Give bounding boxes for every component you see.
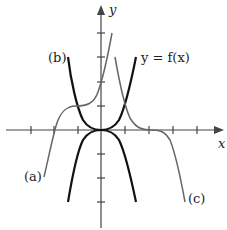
axes bbox=[6, 12, 218, 228]
label-f: y = f(x) bbox=[140, 50, 190, 65]
y-axis-arrow-icon bbox=[97, 5, 105, 15]
curve-neg-f bbox=[68, 130, 136, 202]
label-a: (a) bbox=[24, 169, 42, 184]
x-axis-arrow-icon bbox=[214, 126, 224, 134]
curve-b bbox=[68, 57, 101, 130]
x-axis-label: x bbox=[218, 136, 226, 151]
label-c: (c) bbox=[188, 191, 205, 206]
label-b: (b) bbox=[48, 50, 66, 65]
function-graph: y x (b) y = f(x) (a) (c) bbox=[0, 0, 227, 230]
y-axis-label: y bbox=[108, 2, 117, 17]
